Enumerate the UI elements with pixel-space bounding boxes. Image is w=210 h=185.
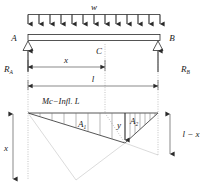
ordinate-c-connector [105, 113, 125, 143]
construction-left-ray [28, 113, 76, 180]
dimension-l-label: l [92, 74, 95, 84]
reaction-a-label: RA [3, 64, 14, 75]
area-a2-label: A2 [129, 116, 139, 127]
influence-line-caption: Mc−Infl. L [41, 96, 80, 106]
support-b-label: B [169, 33, 175, 43]
support-a-triangle [23, 41, 33, 51]
diagram-canvas: w A B C RA RB x l Mc−Infl. L A1 A2 y x l… [0, 0, 210, 185]
influence-line-triangle [28, 113, 158, 143]
beam-group [28, 35, 160, 41]
beam-body [28, 35, 160, 41]
support-b [153, 41, 163, 51]
beam-influence-line-figure: w A B C RA RB x l Mc−Infl. L A1 A2 y x l… [0, 0, 210, 185]
construction-bottom-ray [76, 143, 125, 180]
area-a1-label: A1 [77, 119, 87, 130]
dimension-left-vertical-label: x [3, 143, 8, 153]
dimension-x-label: x [63, 55, 68, 65]
influence-line-left-leg [28, 113, 125, 143]
support-a [23, 41, 33, 51]
load-label: w [91, 2, 97, 12]
dimension-right-vertical-label: l − x [182, 129, 199, 139]
load-arrows [28, 15, 160, 25]
distributed-load-group [28, 15, 160, 25]
reaction-b-label: RB [180, 64, 191, 75]
section-c-label: C [96, 46, 103, 56]
construction-right-ray [125, 143, 158, 155]
construction-lines [28, 113, 158, 180]
ordinate-y-label: y [116, 120, 121, 130]
support-a-label: A [10, 33, 17, 43]
support-b-triangle [153, 41, 163, 51]
